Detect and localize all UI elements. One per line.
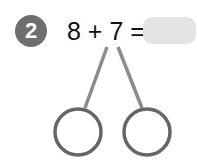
number-bond-diagram: [0, 0, 197, 160]
right-branch-line: [118, 47, 142, 108]
left-branch-line: [85, 47, 107, 108]
right-part-circle[interactable]: [124, 109, 170, 155]
left-part-circle[interactable]: [55, 109, 101, 155]
